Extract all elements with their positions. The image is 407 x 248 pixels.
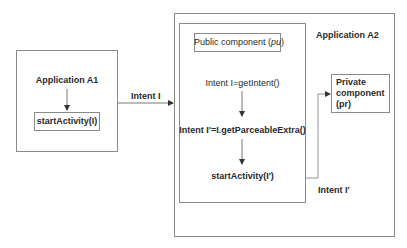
application-a2-title: Application A2: [316, 30, 379, 41]
step-get-intent: Intent I=getIntent(): [179, 78, 306, 89]
intent-i-prime-label: Intent I': [318, 185, 350, 196]
application-a1-box: [16, 50, 118, 152]
public-component-title-abbr: pu: [271, 37, 281, 47]
application-a1-title: Application A1: [16, 75, 118, 86]
private-component-line-1: Private: [336, 77, 366, 88]
intent-i-label: Intent I: [131, 91, 161, 102]
start-activity-i-label: startActivity(I): [34, 116, 100, 127]
public-component-title-suffix: ): [281, 37, 284, 47]
step-get-parceable-extra: Intent I'=I.getParceableExtra(): [179, 125, 306, 136]
private-component-line-2: component: [336, 88, 385, 99]
public-component-title-prefix: Public component (: [194, 37, 271, 47]
step-start-activity-i-prime: startActivity(I'): [179, 171, 306, 182]
public-component-title: Public component (pu): [194, 37, 281, 48]
private-component-line-3: (pr): [336, 99, 351, 110]
